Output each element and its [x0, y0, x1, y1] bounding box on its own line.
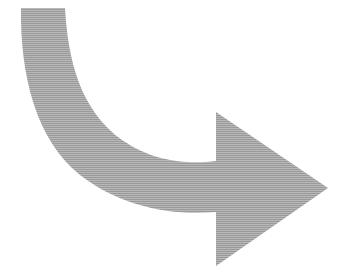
- curved-arrow-graphic: Curved arrow bending clockwise from uppe…: [0, 0, 346, 279]
- curved-arrow-path: [21, 8, 328, 266]
- image-canvas: Curved arrow bending clockwise from uppe…: [0, 0, 346, 279]
